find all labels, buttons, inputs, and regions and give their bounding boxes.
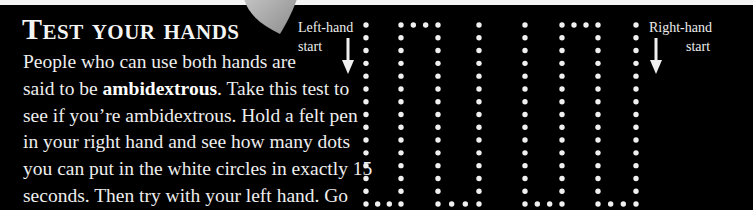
target-dot[interactable] [449, 201, 454, 206]
target-dot[interactable] [522, 137, 527, 142]
target-dot[interactable] [363, 189, 368, 194]
target-dot[interactable] [559, 35, 564, 40]
target-dot[interactable] [398, 150, 403, 155]
target-dot[interactable] [559, 201, 564, 206]
target-dot[interactable] [633, 125, 638, 130]
target-dot[interactable] [363, 150, 368, 155]
target-dot[interactable] [559, 176, 564, 181]
target-dot[interactable] [363, 61, 368, 66]
target-dot[interactable] [476, 35, 481, 40]
target-dot[interactable] [398, 112, 403, 117]
target-dot[interactable] [435, 125, 440, 130]
target-dot[interactable] [398, 163, 403, 168]
target-dot[interactable] [633, 201, 638, 206]
target-dot[interactable] [595, 137, 600, 142]
target-dot[interactable] [595, 48, 600, 53]
target-dot[interactable] [595, 22, 600, 27]
target-dot[interactable] [435, 86, 440, 91]
target-dot[interactable] [621, 201, 626, 206]
target-dot[interactable] [522, 35, 527, 40]
target-dot[interactable] [398, 86, 403, 91]
target-dot[interactable] [633, 189, 638, 194]
target-dot[interactable] [363, 125, 368, 130]
target-dot[interactable] [595, 99, 600, 104]
target-dot[interactable] [435, 137, 440, 142]
target-dot[interactable] [476, 99, 481, 104]
target-dot[interactable] [595, 61, 600, 66]
target-dot[interactable] [522, 86, 527, 91]
target-dot[interactable] [608, 201, 613, 206]
target-dot[interactable] [435, 99, 440, 104]
target-dot[interactable] [559, 150, 564, 155]
target-dot[interactable] [633, 48, 638, 53]
target-dot[interactable] [633, 137, 638, 142]
target-dot[interactable] [435, 112, 440, 117]
target-dot[interactable] [522, 61, 527, 66]
target-dot[interactable] [595, 176, 600, 181]
target-dot[interactable] [476, 125, 481, 130]
target-dot[interactable] [398, 125, 403, 130]
target-dot[interactable] [633, 112, 638, 117]
target-dot[interactable] [387, 201, 392, 206]
target-dot[interactable] [595, 201, 600, 206]
target-dot[interactable] [435, 163, 440, 168]
target-dot[interactable] [522, 73, 527, 78]
target-dot[interactable] [559, 137, 564, 142]
target-dot[interactable] [633, 73, 638, 78]
target-dot[interactable] [476, 189, 481, 194]
target-dot[interactable] [583, 22, 588, 27]
target-dot[interactable] [595, 150, 600, 155]
target-dot[interactable] [522, 150, 527, 155]
target-dot[interactable] [522, 176, 527, 181]
target-dot[interactable] [476, 150, 481, 155]
target-dot[interactable] [423, 22, 428, 27]
target-dot[interactable] [363, 22, 368, 27]
target-dot[interactable] [476, 112, 481, 117]
target-dot[interactable] [398, 201, 403, 206]
target-dot[interactable] [522, 189, 527, 194]
target-dot[interactable] [595, 125, 600, 130]
target-dot[interactable] [522, 201, 527, 206]
target-dot[interactable] [435, 176, 440, 181]
target-dot[interactable] [559, 189, 564, 194]
target-dot[interactable] [559, 86, 564, 91]
target-dot[interactable] [559, 22, 564, 27]
target-dot[interactable] [476, 86, 481, 91]
target-dot[interactable] [559, 73, 564, 78]
target-dot[interactable] [375, 201, 380, 206]
target-dot[interactable] [559, 61, 564, 66]
target-dot[interactable] [476, 73, 481, 78]
target-dot[interactable] [476, 163, 481, 168]
target-dot[interactable] [476, 137, 481, 142]
target-dot[interactable] [476, 48, 481, 53]
target-dot[interactable] [522, 125, 527, 130]
target-dot[interactable] [595, 189, 600, 194]
target-dot[interactable] [363, 48, 368, 53]
target-dot[interactable] [476, 22, 481, 27]
target-dot[interactable] [435, 22, 440, 27]
target-dot[interactable] [363, 176, 368, 181]
target-dot[interactable] [363, 73, 368, 78]
target-dot[interactable] [633, 86, 638, 91]
target-dot[interactable] [363, 137, 368, 142]
target-dot[interactable] [559, 48, 564, 53]
target-dot[interactable] [435, 189, 440, 194]
target-dot[interactable] [363, 35, 368, 40]
dot-maze[interactable] [0, 0, 753, 210]
target-dot[interactable] [595, 86, 600, 91]
target-dot[interactable] [476, 176, 481, 181]
target-dot[interactable] [547, 201, 552, 206]
target-dot[interactable] [398, 137, 403, 142]
target-dot[interactable] [398, 61, 403, 66]
target-dot[interactable] [463, 201, 468, 206]
target-dot[interactable] [595, 112, 600, 117]
target-dot[interactable] [435, 201, 440, 206]
target-dot[interactable] [522, 48, 527, 53]
target-dot[interactable] [363, 86, 368, 91]
target-dot[interactable] [559, 99, 564, 104]
target-dot[interactable] [559, 112, 564, 117]
target-dot[interactable] [633, 176, 638, 181]
target-dot[interactable] [522, 99, 527, 104]
target-dot[interactable] [435, 35, 440, 40]
target-dot[interactable] [595, 73, 600, 78]
